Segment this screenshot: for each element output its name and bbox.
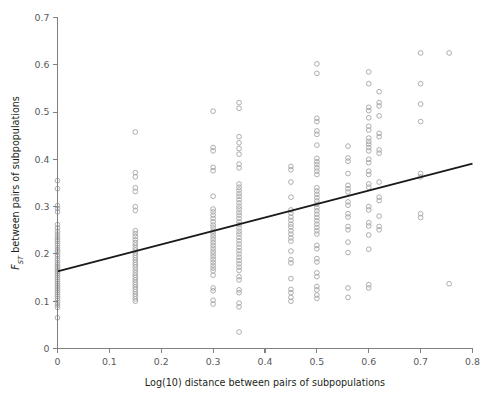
y-tick-label: 0.3 <box>35 201 50 212</box>
data-point <box>346 159 351 164</box>
data-point <box>377 134 382 139</box>
data-point <box>289 195 294 200</box>
data-point <box>315 260 320 265</box>
data-point <box>377 214 382 219</box>
data-point <box>237 330 242 335</box>
x-tick-label: 0.6 <box>361 356 376 367</box>
data-point <box>315 61 320 66</box>
data-point <box>315 246 320 251</box>
data-point <box>366 233 371 238</box>
data-point <box>366 108 371 113</box>
data-point <box>289 180 294 185</box>
data-point <box>377 151 382 156</box>
data-point <box>346 250 351 255</box>
data-point <box>377 89 382 94</box>
data-point <box>289 261 294 266</box>
data-point <box>418 119 423 124</box>
data-point <box>366 70 371 75</box>
data-point <box>237 278 242 283</box>
x-tick-label: 0.3 <box>206 356 221 367</box>
y-tick-label: 0.7 <box>35 12 50 23</box>
figure-container: 00.10.20.30.40.50.60.70.8 00.10.20.30.40… <box>0 0 487 398</box>
data-point <box>377 104 382 109</box>
data-point <box>289 276 294 281</box>
x-axis-ticks: 00.10.20.30.40.50.60.70.8 <box>55 349 480 367</box>
data-point <box>346 286 351 291</box>
data-point <box>315 172 320 177</box>
y-axis-title-rest: between pairs of subpopulations <box>10 96 21 256</box>
data-point <box>418 102 423 107</box>
data-point <box>366 81 371 86</box>
data-point <box>366 160 371 165</box>
data-point <box>237 134 242 139</box>
data-point <box>315 143 320 148</box>
data-point <box>447 51 452 56</box>
data-point <box>211 149 216 154</box>
regression-trend-line <box>58 164 473 272</box>
data-point <box>315 296 320 301</box>
data-point <box>418 51 423 56</box>
data-point <box>346 203 351 208</box>
data-point <box>366 208 371 213</box>
data-point <box>366 286 371 291</box>
data-points-group <box>55 51 451 335</box>
data-point <box>289 239 294 244</box>
data-point <box>237 146 242 151</box>
data-point <box>237 268 242 273</box>
x-tick-label: 0 <box>55 356 61 367</box>
data-point <box>346 227 351 232</box>
data-point <box>346 190 351 195</box>
data-point <box>289 249 294 254</box>
data-point <box>133 130 138 135</box>
data-point <box>315 71 320 76</box>
data-point <box>315 119 320 124</box>
data-point <box>237 100 242 105</box>
data-point <box>366 149 371 154</box>
data-point <box>315 132 320 137</box>
data-point <box>289 167 294 172</box>
data-point <box>366 185 371 190</box>
y-tick-label: 0.4 <box>35 154 50 165</box>
svg-text:FST between pairs of subpopula: FST between pairs of subpopulations <box>10 96 25 270</box>
y-axis-title: FST between pairs of subpopulations <box>10 96 25 270</box>
x-tick-label: 0.4 <box>258 356 273 367</box>
data-point <box>237 152 242 157</box>
data-point <box>447 281 452 286</box>
data-point <box>211 168 216 173</box>
data-point <box>211 194 216 199</box>
data-point <box>346 144 351 149</box>
x-axis-title: Log(10) distance between pairs of subpop… <box>145 377 385 388</box>
data-point <box>346 240 351 245</box>
x-tick-label: 0.7 <box>413 356 428 367</box>
data-point <box>366 247 371 252</box>
data-point <box>346 295 351 300</box>
y-tick-label: 0.2 <box>35 248 50 259</box>
data-point <box>237 290 242 295</box>
data-point <box>377 180 382 185</box>
x-tick-label: 0.5 <box>309 356 324 367</box>
x-tick-label: 0.1 <box>102 356 117 367</box>
data-point <box>366 115 371 120</box>
y-axis-ticks: 00.10.20.30.40.50.60.7 <box>35 12 58 354</box>
data-point <box>346 215 351 220</box>
data-point <box>237 106 242 111</box>
y-tick-label: 0.6 <box>35 59 50 70</box>
x-tick-label: 0.2 <box>154 356 169 367</box>
data-point <box>289 290 294 295</box>
data-point <box>315 288 320 293</box>
data-point <box>211 288 216 293</box>
y-tick-label: 0 <box>44 343 50 354</box>
data-point <box>211 109 216 114</box>
data-point <box>377 198 382 203</box>
data-point <box>346 171 351 176</box>
data-point <box>377 227 382 232</box>
data-point <box>418 81 423 86</box>
y-tick-label: 0.5 <box>35 106 50 117</box>
data-point <box>237 140 242 145</box>
data-point <box>377 114 382 119</box>
data-point <box>315 232 320 237</box>
data-point <box>366 224 371 229</box>
scatter-plot: 00.10.20.30.40.50.60.70.8 00.10.20.30.40… <box>0 0 487 398</box>
data-point <box>366 172 371 177</box>
x-tick-label: 0.8 <box>465 356 480 367</box>
